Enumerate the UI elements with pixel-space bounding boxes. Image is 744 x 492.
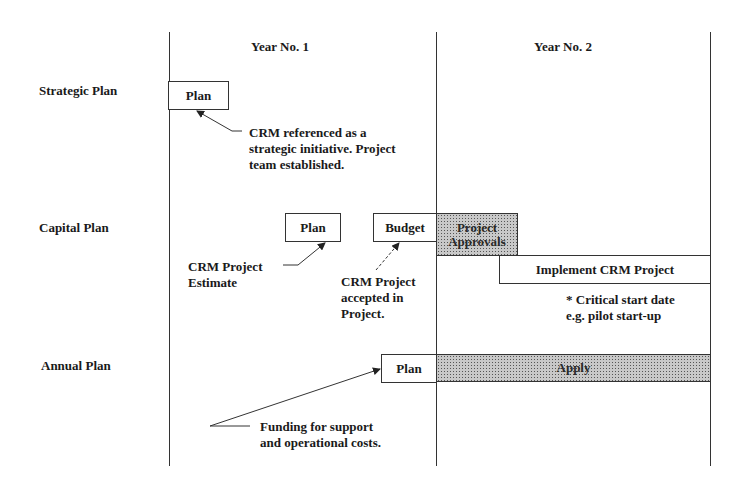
note-accepted-line-3: Project. [341, 306, 415, 322]
note-strategic-line-3: team established. [249, 157, 396, 173]
note-strategic-line-2: strategic initiative. Project [249, 141, 396, 157]
note-strategic-line-1: CRM referenced as a [249, 125, 396, 141]
note-strategic-initiative: CRM referenced as a strategic initiative… [249, 125, 396, 173]
arrow-estimate-note [283, 243, 325, 265]
note-accepted-line-2: accepted in [341, 290, 415, 306]
project-approvals-line2: Approvals [448, 235, 506, 249]
apply-box: Apply [436, 354, 711, 382]
column-header-year-1: Year No. 1 [251, 39, 309, 55]
note-critical-line-2: e.g. pilot start-up [566, 308, 675, 324]
note-crm-project-estimate: CRM Project Estimate [188, 259, 262, 291]
project-approvals-box: Project Approvals [436, 213, 518, 256]
strategic-plan-box-label: Plan [186, 88, 211, 104]
row-label-capital-plan: Capital Plan [39, 220, 109, 236]
note-funding-line-1: Funding for support [260, 419, 381, 435]
row-label-strategic-plan: Strategic Plan [39, 83, 117, 99]
note-accepted-line-1: CRM Project [341, 274, 415, 290]
arrow-strategic-note [197, 111, 242, 131]
implement-crm-project-label: Implement CRM Project [536, 262, 674, 278]
column-header-year-2: Year No. 2 [534, 39, 592, 55]
note-estimate-line-2: Estimate [188, 275, 262, 291]
arrow-funding-note [210, 369, 380, 426]
note-funding-support: Funding for support and operational cost… [260, 419, 381, 451]
capital-plan-box: Plan [285, 213, 341, 242]
note-estimate-line-1: CRM Project [188, 259, 262, 275]
capital-budget-box-label: Budget [385, 220, 425, 236]
capital-plan-box-label: Plan [300, 220, 325, 236]
note-crm-project-accepted: CRM Project accepted in Project. [341, 274, 415, 322]
note-funding-line-2: and operational costs. [260, 435, 381, 451]
note-critical-start-date: * Critical start date e.g. pilot start-u… [566, 292, 675, 324]
annual-plan-box-label: Plan [396, 361, 421, 377]
strategic-plan-box: Plan [168, 81, 229, 110]
arrow-accepted-note [376, 243, 399, 270]
column-divider-right [710, 32, 711, 466]
row-label-annual-plan: Annual Plan [41, 358, 111, 374]
annual-plan-box: Plan [381, 354, 437, 383]
capital-budget-box: Budget [373, 213, 437, 242]
apply-box-label: Apply [557, 360, 591, 376]
project-approvals-line1: Project [457, 221, 497, 235]
note-critical-line-1: * Critical start date [566, 292, 675, 308]
implement-crm-project-box: Implement CRM Project [499, 255, 711, 284]
